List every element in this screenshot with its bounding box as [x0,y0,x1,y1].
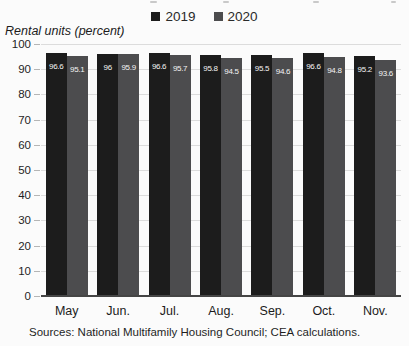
cropped-title-fragment [391,1,396,3]
legend-swatch-2020-icon [214,12,223,21]
x-axis-line [41,295,401,297]
y-tick-label-50: 50 [3,164,31,176]
bar-2020-nov [375,60,396,296]
source-note: Sources: National Multifamily Housing Co… [29,326,360,338]
y-tick-label-60: 60 [3,139,31,151]
y-tickmark-0 [34,296,40,297]
y-tick-label-40: 40 [3,189,31,201]
cropped-title-fragment [313,1,319,3]
bar-2019-oct [303,53,324,296]
y-tickmark-90 [34,69,40,70]
bar-2020-may [67,56,88,296]
legend-item-2020: 2020 [214,9,258,24]
bar-value-2020-nov: 93.6 [375,69,396,78]
bar-value-2019-oct: 96.6 [303,62,324,71]
x-tick-label-jun: Jun. [92,304,144,318]
legend-label-2019: 2019 [165,9,195,24]
bar-value-2019-jul: 96.6 [149,62,170,71]
bar-value-2020-sep: 94.6 [272,67,293,76]
legend-label-2020: 2020 [228,9,258,24]
bar-value-2019-jun: 96 [97,63,118,72]
y-tickmark-40 [34,195,40,196]
bar-2020-aug [221,58,242,296]
bar-2019-sep [251,55,272,296]
y-tickmark-70 [34,120,40,121]
x-tick-label-aug: Aug. [195,304,247,318]
y-tick-label-10: 10 [3,265,31,277]
y-tick-label-90: 90 [3,63,31,75]
y-tickmark-50 [34,170,40,171]
bar-2020-jul [170,55,191,296]
y-tickmark-30 [34,220,40,221]
bar-value-2020-jun: 95.9 [118,63,139,72]
y-tickmark-60 [34,145,40,146]
x-tick-label-jul: Jul. [144,304,196,318]
y-tickmark-10 [34,271,40,272]
bar-2020-sep [272,58,293,296]
bar-value-2019-aug: 95.8 [200,64,221,73]
y-axis-title: Rental units (percent) [5,24,125,38]
bar-2019-jun [97,54,118,296]
bar-value-2020-aug: 94.5 [221,67,242,76]
x-tick-label-oct: Oct. [298,304,350,318]
bar-2020-oct [324,57,345,296]
cropped-title-fragment [223,1,229,3]
bar-value-2020-jul: 95.7 [170,64,191,73]
x-tick-label-may: May [41,304,93,318]
x-tick-label-sep: Sep. [246,304,298,318]
bar-2020-jun [118,54,139,296]
bar-2019-aug [200,55,221,296]
bar-value-2020-may: 95.1 [67,65,88,74]
legend-swatch-2019-icon [151,12,160,21]
bar-2019-nov [354,56,375,296]
x-tick-label-nov: Nov. [349,304,401,318]
y-tickmark-20 [34,246,40,247]
bar-value-2019-nov: 95.2 [354,65,375,74]
y-tick-label-0: 0 [3,290,31,302]
y-tick-label-20: 20 [3,240,31,252]
bar-value-2019-sep: 95.5 [251,64,272,73]
y-tick-label-100: 100 [3,38,31,50]
chart-legend: 2019 2020 [0,9,409,24]
y-tickmark-100 [34,44,40,45]
y-tickmark-80 [34,94,40,95]
gridline-100 [41,44,401,45]
y-tick-label-70: 70 [3,114,31,126]
cropped-title-fragment [150,1,157,3]
bar-2019-jul [149,53,170,296]
legend-item-2019: 2019 [151,9,195,24]
y-tick-label-30: 30 [3,214,31,226]
bar-2019-may [46,53,67,296]
y-tick-label-80: 80 [3,88,31,100]
bar-value-2020-oct: 94.8 [324,66,345,75]
bar-value-2019-may: 96.6 [46,62,67,71]
